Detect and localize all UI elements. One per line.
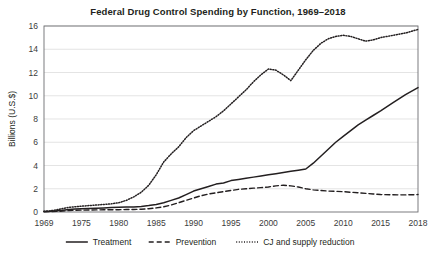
y-tick-label: 0	[33, 207, 38, 217]
x-tick-label: 2015	[371, 218, 390, 228]
gridlines	[44, 26, 418, 189]
y-tick-label: 4	[33, 161, 38, 171]
legend-label-cj-and-supply-reduction: CJ and supply reduction	[263, 237, 354, 247]
x-tick-label: 1985	[147, 218, 166, 228]
series-line-cj-and-supply-reduction	[44, 29, 418, 211]
x-tick-label: 1995	[222, 218, 241, 228]
y-axis-title-group: Billions (U.S.$)	[7, 91, 17, 147]
data-series-group	[44, 29, 418, 211]
x-tick-label: 1975	[72, 218, 91, 228]
chart-legend: TreatmentPreventionCJ and supply reducti…	[66, 237, 355, 247]
y-tick-label: 6	[33, 137, 38, 147]
x-tick-label: 2010	[334, 218, 353, 228]
y-tick-label: 14	[29, 44, 39, 54]
y-tick-label: 12	[29, 68, 39, 78]
x-axis-tick-labels: 1969197519801985199019952000200520102015…	[35, 218, 428, 228]
y-tick-label: 8	[33, 114, 38, 124]
x-tick-label: 2005	[296, 218, 315, 228]
x-tick-label: 1980	[109, 218, 128, 228]
legend-label-prevention: Prevention	[176, 237, 217, 247]
y-axis-tick-labels: 0246810121416	[29, 21, 39, 217]
chart-container: Federal Drug Control Spending by Functio…	[0, 0, 436, 259]
legend-label-treatment: Treatment	[93, 237, 132, 247]
y-tick-label: 10	[29, 91, 39, 101]
y-axis-title: Billions (U.S.$)	[7, 91, 17, 147]
x-tick-label: 1990	[184, 218, 203, 228]
x-tick-label: 2018	[409, 218, 428, 228]
chart-plot: 0246810121416 19691975198019851990199520…	[0, 0, 436, 259]
x-tick-label: 1969	[35, 218, 54, 228]
y-tick-label: 2	[33, 184, 38, 194]
x-tick-label: 2000	[259, 218, 278, 228]
y-tick-label: 16	[29, 21, 39, 31]
